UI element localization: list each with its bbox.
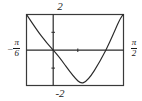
x-max-fraction: π 2	[131, 38, 138, 59]
cosine-curve	[27, 15, 123, 83]
x-min-minus-sign: –	[8, 44, 13, 53]
function-graph-figure: 2 -2 – π 6 π 2	[0, 0, 142, 101]
x-max-denominator: 2	[131, 49, 138, 58]
x-min-label: – π 6	[2, 38, 26, 59]
x-max-label: π 2	[126, 38, 142, 59]
x-min-fraction: π 6	[13, 38, 20, 59]
x-min-numerator: π	[13, 38, 20, 47]
x-min-denominator: 6	[13, 49, 20, 58]
y-min-label: -2	[48, 88, 72, 99]
y-max-label: 2	[50, 1, 70, 12]
x-max-numerator: π	[131, 38, 138, 47]
